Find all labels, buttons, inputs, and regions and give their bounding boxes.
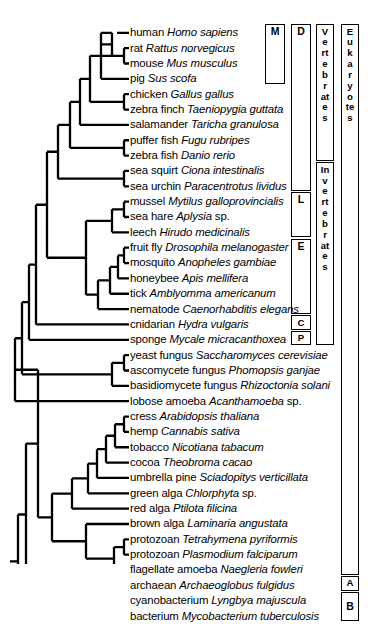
bracket-label-archaea: A: [347, 578, 354, 588]
taxon-common-name: puffer fish: [130, 134, 181, 146]
taxon-label-bacterium: bacterium Mycobacterium tuberculosis: [130, 609, 319, 624]
taxon-scientific-name: Saccharomyces cerevisiae: [196, 349, 328, 361]
taxon-scientific-name: Hirudo medicinalis: [160, 226, 250, 238]
taxon-label-red-alga: red alga Ptilota filicina: [130, 501, 237, 516]
taxon-scientific-name: Ptilota filicina: [173, 502, 237, 514]
bracket-label-deuterostomes: D: [297, 26, 305, 37]
taxon-common-name: archaean: [130, 579, 179, 591]
taxon-label-tobacco: tobacco Nicotiana tabacum: [130, 440, 264, 455]
bracket-label-lophotrochozoa: L: [298, 194, 304, 205]
taxon-scientific-name: Archaeoglobus fulgidus: [179, 579, 294, 591]
taxon-scientific-name: Chlorphyta: [185, 487, 239, 499]
taxon-suffix: sp.: [284, 395, 302, 407]
taxon-scientific-name: Arabidopsis thaliana: [159, 410, 259, 422]
taxon-scientific-name: Danio rerio: [181, 149, 235, 161]
taxon-common-name: sea squirt: [130, 164, 181, 176]
bracket-bacteria: B: [341, 592, 359, 622]
taxon-label-flagellate: flagellate amoeba Naegleria fowleri: [130, 562, 303, 577]
taxon-label-sea-hare: sea hare Aplysia sp.: [130, 209, 230, 224]
taxon-label-nematode: nematode Caenorhabditis elegans: [130, 302, 299, 317]
taxon-label-protozoan-tetra: protozoan Tetrahymena pyriformis: [130, 532, 298, 547]
taxon-scientific-name: Naegleria fowleri: [220, 563, 302, 575]
taxon-scientific-name: Amblyomma americanum: [150, 287, 276, 299]
taxon-scientific-name: Mycobacterium tuberculosis: [182, 610, 319, 622]
taxon-common-name: protozoan: [130, 548, 182, 560]
taxon-label-cyanobacterium: cyanobacterium Lyngbya majuscula: [130, 593, 306, 608]
taxon-common-name: human: [130, 26, 167, 38]
taxon-scientific-name: Nicotiana tabacum: [172, 441, 264, 453]
taxon-label-mouse: mouse Mus musculus: [130, 56, 237, 71]
bracket-vertebrates: Vertebrates: [316, 24, 334, 161]
taxon-common-name: zebra finch: [130, 103, 187, 115]
taxon-label-pig: pig Sus scofa: [130, 71, 196, 86]
taxon-common-name: zebra fish: [130, 149, 181, 161]
taxon-scientific-name: Ciona intestinalis: [181, 164, 264, 176]
bracket-label-eukaryotes: Eukaryotes: [346, 25, 355, 124]
bracket-label-vertebrates: Vertebrates: [321, 25, 330, 124]
taxon-scientific-name: Mycale micracanthoxea: [170, 333, 287, 345]
taxon-label-yeast-fungus: yeast fungus Saccharomyces cerevisiae: [130, 348, 328, 363]
taxon-label-sea-squirt: sea squirt Ciona intestinalis: [130, 163, 264, 178]
taxon-suffix: sp.: [239, 487, 257, 499]
taxon-common-name: hemp: [130, 425, 161, 437]
taxon-scientific-name: Homo sapiens: [167, 26, 238, 38]
taxon-common-name: rat: [130, 42, 146, 54]
taxon-common-name: green alga: [130, 487, 185, 499]
taxon-scientific-name: Hydra vulgaris: [178, 318, 249, 330]
taxon-label-cocoa: cocoa Theobroma cacao: [130, 455, 252, 470]
taxon-label-green-alga: green alga Chlorphyta sp.: [130, 486, 257, 501]
taxon-common-name: honeybee: [130, 272, 182, 284]
taxon-label-chicken: chicken Gallus gallus: [130, 87, 234, 102]
bracket-mammals: M: [265, 24, 285, 84]
taxon-common-name: mussel: [130, 195, 168, 207]
taxon-scientific-name: Laminaria angustata: [187, 517, 287, 529]
taxon-label-mussel: mussel Mytilus galloprovincialis: [130, 194, 283, 209]
taxon-label-ascomycete: ascomycete fungus Phomopsis ganjae: [130, 363, 320, 378]
taxon-common-name: red alga: [130, 502, 173, 514]
taxon-scientific-name: Rhizoctonia solani: [240, 379, 330, 391]
taxon-scientific-name: Gallus gallus: [171, 88, 234, 100]
bracket-label-ecdysozoa: E: [297, 241, 304, 252]
bracket-deuterostomes: D: [291, 24, 311, 192]
taxon-common-name: fruit fly: [130, 241, 165, 253]
taxon-common-name: pig: [130, 72, 148, 84]
taxon-scientific-name: Mus musculus: [166, 57, 237, 69]
taxon-label-cress: cress Arabidopsis thaliana: [130, 409, 259, 424]
taxon-label-hemp: hemp Cannabis sativa: [130, 424, 240, 439]
taxon-common-name: leech: [130, 226, 160, 238]
taxon-common-name: sponge: [130, 333, 170, 345]
taxon-scientific-name: Sus scofa: [148, 72, 197, 84]
taxon-scientific-name: Fugu rubripes: [181, 134, 249, 146]
taxon-common-name: chicken: [130, 88, 171, 100]
taxon-suffix: sp.: [212, 210, 230, 222]
taxon-common-name: cress: [130, 410, 159, 422]
taxon-label-puffer-fish: puffer fish Fugu rubripes: [130, 133, 250, 148]
taxon-scientific-name: Acanthamoeba: [209, 395, 284, 407]
taxon-scientific-name: Anopheles gambiae: [178, 256, 276, 268]
taxon-scientific-name: Rattus norvegicus: [146, 42, 235, 54]
bracket-label-porifera: P: [298, 333, 304, 343]
taxon-common-name: sea hare: [130, 210, 176, 222]
taxon-label-salamander: salamander Taricha granulosa: [130, 117, 279, 132]
bracket-archaea: A: [341, 576, 359, 590]
taxon-common-name: tobacco: [130, 441, 172, 453]
taxon-common-name: salamander: [130, 118, 191, 130]
taxon-common-name: cyanobacterium: [130, 594, 211, 606]
bracket-label-bacteria: B: [346, 601, 354, 612]
taxon-label-mosquito: mosquito Anopheles gambiae: [130, 255, 276, 270]
taxon-label-cnidarian: cnidarian Hydra vulgaris: [130, 317, 249, 332]
taxon-common-name: basidiomycete fungus: [130, 379, 240, 391]
taxon-label-umbrella-pine: umbrella pine Sciadopitys verticillata: [130, 470, 308, 485]
taxon-common-name: tick: [130, 287, 150, 299]
taxon-scientific-name: Drosophila melanogaster: [165, 241, 288, 253]
taxon-scientific-name: Theobroma cacao: [163, 456, 253, 468]
taxon-label-tick: tick Amblyomma americanum: [130, 286, 276, 301]
taxon-label-brown-alga: brown alga Laminaria angustata: [130, 516, 288, 531]
bracket-lophotrochozoa: L: [291, 192, 311, 237]
taxon-label-protozoan-plasmo: protozoan Plasmodium falciparum: [130, 547, 298, 562]
taxon-common-name: sea urchin: [130, 180, 184, 192]
bracket-label-invertebrates: Invertebrates: [321, 163, 330, 273]
taxon-common-name: flagellate amoeba: [130, 563, 220, 575]
taxon-scientific-name: Aplysia: [176, 210, 212, 222]
taxon-common-name: bacterium: [130, 610, 182, 622]
